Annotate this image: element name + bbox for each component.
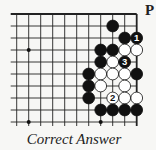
black-stone [119,104,131,116]
white-stone [119,68,131,80]
black-stone [83,80,95,92]
white-stone [107,68,119,80]
white-stone: 2 [107,92,119,104]
black-stone: 3 [119,56,131,68]
star-point [99,120,103,124]
caption: Correct Answer [0,131,148,148]
black-stone [131,68,143,80]
white-stone [107,56,119,68]
white-stone [119,44,131,56]
black-stone [95,104,107,116]
black-stone [131,104,143,116]
white-stone [119,92,131,104]
black-stone: 1 [131,32,143,44]
move-number-label: 3 [122,56,127,67]
black-stone [107,44,119,56]
black-stone [83,68,95,80]
black-stone [83,92,95,104]
white-stone [131,44,143,56]
star-point [27,120,31,124]
black-stone [119,32,131,44]
black-stone [95,44,107,56]
move-number-label: 1 [134,32,140,43]
white-stone [95,80,107,92]
move-number-label: 2 [110,92,115,103]
side-letter: P [145,2,154,19]
go-board: 132 [0,0,156,130]
black-stone [107,20,119,32]
white-stone [95,68,107,80]
white-stone [119,80,131,92]
black-stone [95,56,107,68]
black-stone [107,104,119,116]
star-point [27,48,31,52]
white-stone [131,92,143,104]
